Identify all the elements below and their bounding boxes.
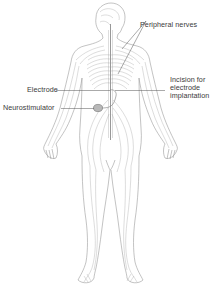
electrode-label: Electrode (27, 86, 58, 94)
spinal-cord (109, 24, 113, 140)
peripheral-nerves-label: Peripheral nerves (140, 21, 197, 29)
incision-label-line-3: implantation (170, 92, 212, 100)
body-diagram (0, 0, 212, 287)
implant-device (94, 90, 117, 112)
neurostimulator-label: Neurostimulator (3, 104, 54, 112)
incision-label: Incision for electrode implantation (170, 76, 212, 100)
